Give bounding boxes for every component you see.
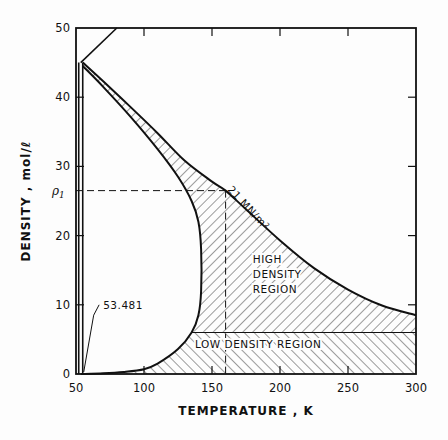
x-axis-title: TEMPERATURE , K [178,404,314,418]
x-tick-label: 50 [69,381,84,395]
x-tick-label: 150 [201,381,223,395]
rho1-subscript: 1 [59,190,65,200]
low-density-region-label: LOW DENSITY REGION [195,338,321,350]
y-tick-label: 0 [63,367,70,381]
x-tick-label: 250 [337,381,359,395]
density-temperature-chart: 5010015020025030001020304050 TEMPERATURE… [0,0,448,440]
high-density-region-label: DENSITY [253,268,302,280]
high-density-region-label: HIGH [253,253,282,265]
y-tick-label: 50 [55,21,70,35]
triple-point-leader [84,305,99,372]
x-tick-label: 200 [269,381,291,395]
x-tick-label: 100 [133,381,155,395]
high-density-region [83,63,416,333]
x-tick-label: 300 [405,381,427,395]
rho1-label: ρ1 [51,184,65,200]
triple-point-label: 53.481 [103,299,143,311]
phase-boundary-curve [81,66,202,374]
y-tick-label: 10 [55,298,70,312]
y-tick-label: 40 [55,90,70,104]
y-tick-label: 20 [55,229,70,243]
y-axis-title: DENSITY , mol/ℓ [19,140,33,261]
y-tick-label: 30 [55,159,70,173]
high-density-region-label: REGION [253,283,297,295]
melting-slant-line [81,28,117,63]
